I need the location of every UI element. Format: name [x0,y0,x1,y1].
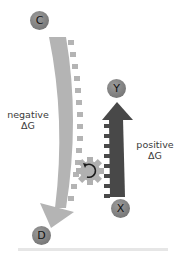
node-x: X [111,199,130,218]
negative-dg-label: negative ΔG [6,109,50,131]
node-d: D [32,226,51,245]
baseline-divider [18,248,168,251]
negative-dg-arrow [40,37,83,228]
positive-dg-label: positive ΔG [133,139,177,161]
positive-dg-arrow [102,102,133,198]
gear-icon [76,157,104,185]
node-y: Y [107,79,126,98]
node-c: C [30,11,49,30]
